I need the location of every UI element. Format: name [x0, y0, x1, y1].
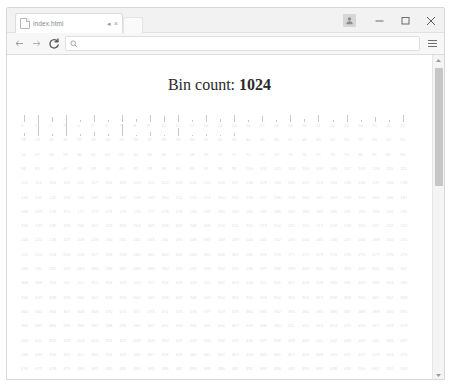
histogram-bin-label: 289 [147, 266, 161, 272]
histogram-bin-label: 238 [218, 237, 232, 243]
histogram-bin-label: 98 [218, 166, 232, 172]
histogram-bin: 524 [302, 372, 316, 380]
histogram-bin-label: 30 [49, 137, 63, 143]
reload-icon[interactable] [45, 35, 62, 52]
histogram-bin: 314 [105, 272, 119, 286]
histogram-bin-label: 431 [176, 338, 190, 344]
histogram-bin: 129 [260, 172, 274, 186]
forward-icon[interactable] [28, 35, 45, 52]
histogram-bin-label: 502 [386, 366, 400, 372]
histogram-bin: 188 [302, 201, 316, 215]
tab-audio-icon[interactable]: ◂ [107, 20, 111, 27]
histogram-bin: 57 [35, 144, 49, 158]
histogram-bin-label: 303 [344, 266, 358, 272]
histogram-bin-label: 372 [133, 309, 147, 315]
histogram-bin-label: 490 [218, 366, 232, 372]
scroll-down-icon[interactable] [433, 370, 444, 380]
histogram-bar [24, 115, 25, 122]
histogram-bin: 123 [176, 172, 190, 186]
tab-strip: index.html ◂ × [7, 8, 444, 33]
profile-avatar-icon[interactable] [343, 14, 356, 27]
histogram-bin-label: 264 [190, 252, 204, 258]
histogram-bin: 439 [288, 329, 302, 343]
histogram-bin: 502 [386, 358, 400, 372]
browser-tab[interactable]: index.html ◂ × [15, 13, 123, 33]
histogram-bin: 214 [274, 215, 288, 229]
histogram-bin: 220 [358, 215, 372, 229]
histogram-bin: 517 [204, 372, 218, 380]
histogram-bin: 110 [386, 158, 400, 172]
browser-menu-icon[interactable] [424, 35, 440, 52]
histogram-bin-label: 278 [386, 252, 400, 258]
histogram-bin: 33 [91, 129, 105, 143]
histogram-bin-label: 22 [330, 123, 344, 129]
scrollbar-thumb[interactable] [435, 68, 443, 186]
histogram-bar [276, 120, 277, 122]
histogram-bin: 469 [316, 344, 330, 358]
histogram-bin: 91 [119, 158, 133, 172]
histogram-bin-label: 156 [246, 195, 260, 201]
histogram-bin: 235 [176, 229, 190, 243]
histogram-bin: 35 [119, 129, 133, 143]
histogram-bin: 267 [232, 244, 246, 258]
close-icon[interactable] [418, 8, 444, 33]
histogram-bin: 163 [344, 186, 358, 200]
histogram-bin-label: 292 [190, 266, 204, 272]
histogram-bin-label: 424 [77, 338, 91, 344]
histogram-bin-label: 356 [302, 295, 316, 301]
address-bar[interactable] [65, 36, 420, 51]
histogram-bin-label: 246 [330, 237, 344, 243]
histogram-bin: 114 [49, 172, 63, 186]
histogram-bin-label: 467 [288, 352, 302, 358]
histogram-bin-label: 495 [288, 366, 302, 372]
histogram-bin: 275 [344, 244, 358, 258]
histogram-bin: 449 [35, 344, 49, 358]
histogram-bin-label: 300 [302, 266, 316, 272]
histogram-bin-label: 127 [232, 180, 246, 186]
histogram-bin-label: 57 [35, 152, 49, 158]
histogram-bin-label: 186 [274, 209, 288, 215]
histogram-bin: 74 [274, 144, 288, 158]
histogram-bin-label: 363 [400, 295, 414, 301]
histogram-bin: 210 [218, 215, 232, 229]
histogram-bin-label: 78 [330, 152, 344, 158]
histogram-bin-label: 500 [358, 366, 372, 372]
histogram-bin-label: 124 [190, 180, 204, 186]
histogram-bin-label: 152 [190, 195, 204, 201]
histogram-bin-label: 50 [330, 137, 344, 143]
histogram-bin-label: 265 [204, 252, 218, 258]
histogram-bin: 105 [316, 158, 330, 172]
new-tab-button[interactable] [123, 17, 143, 33]
histogram-bin: 14 [218, 115, 232, 129]
histogram-bin-label: 469 [316, 352, 330, 358]
minimize-icon[interactable] [366, 8, 392, 33]
histogram-bin-label: 286 [105, 266, 119, 272]
histogram-bin-label: 249 [372, 237, 386, 243]
maximize-icon[interactable] [392, 8, 418, 33]
histogram-bin-label: 492 [246, 366, 260, 372]
histogram-bin: 133 [316, 172, 330, 186]
histogram-bin-label: 271 [288, 252, 302, 258]
histogram-bin-label: 160 [302, 195, 316, 201]
histogram-bin-label: 196 [21, 223, 35, 229]
histogram-bin-label: 268 [246, 252, 260, 258]
histogram-bin: 525 [316, 372, 330, 380]
histogram-bin-label: 429 [147, 338, 161, 344]
histogram-bin: 207 [176, 215, 190, 229]
histogram-bin: 482 [105, 358, 119, 372]
histogram-bin: 445 [372, 329, 386, 343]
vertical-scrollbar[interactable] [432, 55, 444, 380]
scroll-up-icon[interactable] [433, 55, 444, 66]
histogram-bin-label: 131 [288, 180, 302, 186]
histogram-bin-label: 477 [35, 366, 49, 372]
histogram-bin: 354 [274, 287, 288, 301]
tab-close-icon[interactable]: × [114, 20, 118, 27]
histogram-bin: 146 [105, 186, 119, 200]
histogram-bin-label: 217 [316, 223, 330, 229]
histogram-bin-label: 352 [246, 295, 260, 301]
histogram-bar [248, 120, 249, 122]
histogram-bin-label: 17 [260, 123, 274, 129]
histogram-bin: 526 [330, 372, 344, 380]
back-icon[interactable] [11, 35, 28, 52]
histogram-bin-label: 53 [372, 137, 386, 143]
